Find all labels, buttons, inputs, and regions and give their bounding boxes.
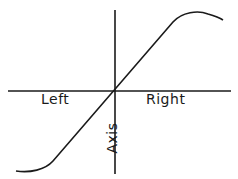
axis-label: Axis (104, 122, 120, 153)
diagram: Left Right Axis (0, 0, 238, 179)
left-label: Left (41, 91, 69, 107)
right-label: Right (146, 91, 185, 107)
